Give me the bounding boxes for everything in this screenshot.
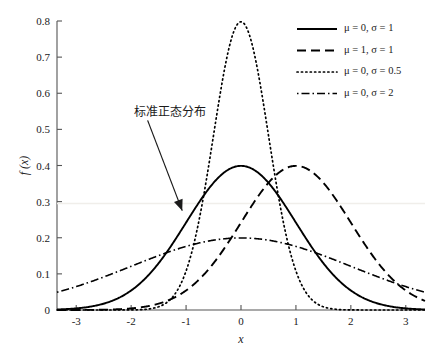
normal-distribution-chart: 00.10.20.30.40.50.60.70.8 -3-2-10123 f (…: [0, 0, 440, 356]
x-tick-label: 0: [238, 315, 244, 327]
y-tick-label: 0.2: [22, 232, 50, 244]
x-tick-label: 3: [403, 315, 409, 327]
y-axis-title: f (x): [17, 135, 32, 195]
y-tick-label: 0.6: [22, 87, 50, 99]
x-tick-label: 1: [293, 315, 299, 327]
legend-label-mu-0-sigma-1: μ = 0, σ = 1: [344, 22, 393, 33]
legend-label-mu-0-sigma-2: μ = 0, σ = 2: [344, 87, 393, 98]
legend-label-mu-1-sigma-1: μ = 1, σ = 1: [344, 44, 393, 55]
y-tick-label: 0.8: [22, 15, 50, 27]
legend-line-samples: [297, 29, 337, 94]
annotation-label: 标准正态分布: [134, 102, 206, 119]
x-tick-label: -3: [72, 315, 81, 327]
y-tick-label: 0.7: [22, 51, 50, 63]
y-tick-label: 0.3: [22, 196, 50, 208]
x-tick-label: 2: [348, 315, 354, 327]
curve-mu-0-sigma-2: [57, 238, 425, 292]
y-tick-label: 0.5: [22, 123, 50, 135]
x-tick-label: -1: [181, 315, 190, 327]
y-tick-label: 0.1: [22, 268, 50, 280]
legend-label-mu-0-sigma-0p5: μ = 0, σ = 0.5: [344, 65, 401, 76]
x-tick-label: -2: [127, 315, 136, 327]
annotation-arrow: [148, 120, 183, 210]
x-axis-title: x: [221, 332, 261, 347]
y-tick-label: 0: [22, 304, 50, 316]
